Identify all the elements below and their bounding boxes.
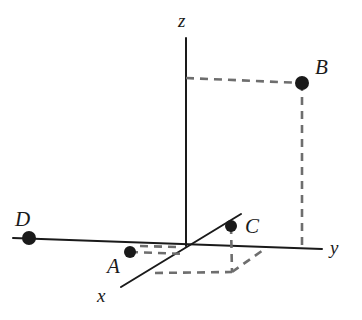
axes-group	[13, 38, 322, 287]
x-axis	[121, 214, 241, 287]
parallelogram-top-edge	[140, 246, 178, 247]
axis-label-z: z	[178, 11, 185, 30]
coordinate-diagram: z y x A B C D	[0, 0, 362, 320]
diagram-canvas	[0, 0, 362, 320]
point-dot-c	[225, 220, 237, 232]
point-dot-b	[295, 76, 309, 90]
b-horizontal-to-z-axis	[186, 78, 302, 83]
axis-label-x: x	[97, 286, 105, 305]
y-axis	[13, 238, 322, 249]
point-label-b: B	[315, 57, 328, 78]
axis-label-y: y	[330, 238, 338, 257]
point-label-d: D	[15, 209, 30, 230]
parallelogram-front-edge	[155, 272, 232, 273]
point-dot-a	[124, 246, 136, 258]
point-markers	[22, 76, 309, 258]
point-dot-d	[22, 231, 36, 245]
c-vertical-drop	[231, 226, 232, 272]
parallelogram-right-edge	[232, 248, 266, 272]
point-label-a: A	[107, 256, 120, 277]
point-label-c: C	[245, 216, 259, 237]
